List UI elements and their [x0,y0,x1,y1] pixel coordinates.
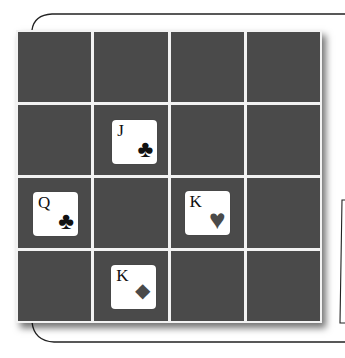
clubs-suit-icon: ♣ [138,137,154,161]
clubs-suit-icon: ♣ [58,209,74,233]
board-cell-r2-c3[interactable] [247,178,320,248]
card-rank: Q [38,193,50,213]
board-cell-r0-c0[interactable] [18,32,91,102]
hearts-suit-icon: ♥ [209,208,226,232]
diamonds-suit-icon: ◆ [135,278,150,302]
board-cell-r2-c1[interactable] [94,178,167,248]
board-cell-r0-c3[interactable] [247,32,320,102]
card-king-of-diamonds[interactable]: K ◆ [111,265,156,309]
card-rank: J [117,121,124,141]
board-cell-r2-c2[interactable]: K ♥ [171,178,244,248]
board-cell-r1-c0[interactable] [18,105,91,175]
game-board: J ♣ Q ♣ K ♥ K ◆ [16,30,322,323]
card-jack-of-clubs[interactable]: J ♣ [112,120,157,164]
board-cell-r3-c0[interactable] [18,251,91,321]
card-rank: K [116,266,128,286]
board-cell-r2-c0[interactable]: Q ♣ [18,178,91,248]
board-cell-r1-c2[interactable] [171,105,244,175]
board-cell-r3-c1[interactable]: K ◆ [94,251,167,321]
card-rank: K [190,192,202,212]
board-cell-r1-c3[interactable] [247,105,320,175]
board-cell-r1-c1[interactable]: J ♣ [94,105,167,175]
board-cell-r0-c2[interactable] [171,32,244,102]
board-cell-r3-c3[interactable] [247,251,320,321]
card-queen-of-clubs[interactable]: Q ♣ [33,192,78,236]
board-cell-r0-c1[interactable] [94,32,167,102]
card-king-of-hearts[interactable]: K ♥ [185,191,230,235]
board-cell-r3-c2[interactable] [171,251,244,321]
